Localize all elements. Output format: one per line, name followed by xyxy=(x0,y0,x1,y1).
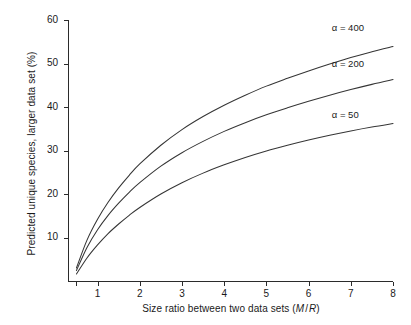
chart-plot-area xyxy=(0,0,411,325)
x-axis-title-close: ) xyxy=(316,303,319,314)
y-tick-label-40: 40 xyxy=(36,101,58,112)
series-curve-alpha-50 xyxy=(76,124,393,275)
series-label-alpha-400: α = 400 xyxy=(332,22,364,33)
series-label-alpha-50: α = 50 xyxy=(332,109,359,120)
x-tick-label-7: 7 xyxy=(342,288,360,299)
y-axis-title: Predicted unique species, larger data se… xyxy=(26,29,37,279)
x-tick-label-3: 3 xyxy=(173,288,191,299)
chart-series-curves xyxy=(76,47,393,275)
y-tick-label-10: 10 xyxy=(36,231,58,242)
x-axis-title: Size ratio between two data sets (M / R) xyxy=(68,303,394,314)
x-tick-label-6: 6 xyxy=(300,288,318,299)
x-tick-label-5: 5 xyxy=(257,288,275,299)
y-tick-label-30: 30 xyxy=(36,144,58,155)
x-axis-title-m: M xyxy=(296,303,304,314)
x-axis-title-plain: Size ratio between two data sets ( xyxy=(142,303,295,314)
chart-figure: 102030405060 12345678 α = 400α = 200α = … xyxy=(0,0,411,325)
x-tick-label-8: 8 xyxy=(384,288,402,299)
series-curve-alpha-400 xyxy=(76,47,393,268)
y-tick-label-20: 20 xyxy=(36,188,58,199)
series-label-alpha-200: α = 200 xyxy=(332,58,364,69)
x-tick-label-2: 2 xyxy=(131,288,149,299)
x-tick-label-4: 4 xyxy=(215,288,233,299)
x-tick-label-1: 1 xyxy=(89,288,107,299)
y-tick-label-50: 50 xyxy=(36,57,58,68)
y-tick-label-60: 60 xyxy=(36,14,58,25)
